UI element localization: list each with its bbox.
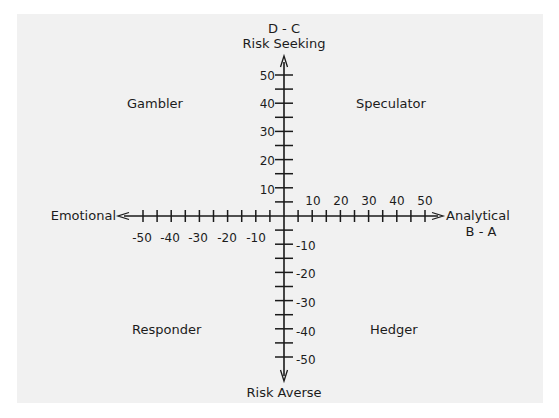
y-tick-label: -10 [296, 240, 316, 252]
y-tick-label: 30 [260, 126, 275, 138]
y-axis-bottom-label: Risk Averse [246, 386, 321, 399]
x-tick-label: -10 [246, 232, 266, 244]
x-tick-label: 10 [305, 195, 320, 207]
y-axis-formula: D - C [268, 22, 300, 35]
quadrant-hedger: Hedger [370, 323, 418, 336]
quadrant-responder: Responder [132, 323, 201, 336]
x-axis-formula: B - A [466, 225, 497, 238]
y-tick-label: 40 [260, 98, 275, 110]
y-axis-top-label: Risk Seeking [243, 37, 326, 50]
x-tick-label: -50 [132, 232, 152, 244]
x-axis-right-label: Analytical [446, 209, 510, 222]
y-tick-label: 20 [260, 155, 275, 167]
x-tick-label: -30 [188, 232, 208, 244]
quadrant-gambler: Gambler [127, 97, 183, 110]
x-tick-label: -20 [217, 232, 237, 244]
y-tick-label: -30 [296, 297, 316, 309]
y-tick-label: 50 [260, 70, 275, 82]
x-axis-left-label: Emotional [51, 209, 116, 222]
x-tick-label: 20 [333, 195, 348, 207]
y-tick-label: -50 [296, 354, 316, 366]
x-tick-label: 50 [417, 195, 432, 207]
y-tick-label: 10 [260, 184, 275, 196]
quadrant-speculator: Speculator [356, 97, 426, 110]
x-tick-label: 30 [361, 195, 376, 207]
y-tick-label: -40 [296, 326, 316, 338]
y-tick-label: -20 [296, 268, 316, 280]
x-tick-label: -40 [160, 232, 180, 244]
x-tick-label: 40 [389, 195, 404, 207]
